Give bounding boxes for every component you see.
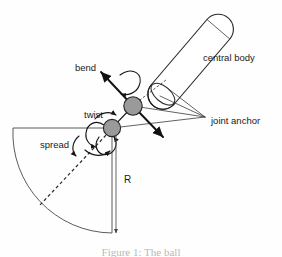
twist-rotation-arrow-icon [96,137,116,155]
label-radius: R [124,174,131,185]
label-spread: spread [40,139,69,150]
joint-degrees-of-freedom-diagram: central body joint anchor bend twist spr… [0,0,282,257]
spread-rotation-arrow-icon [73,136,79,156]
twist-rotation-arrow-secondary-icon [86,122,104,147]
label-twist: twist [84,109,103,120]
label-joint-anchor: joint anchor [210,115,260,126]
twist-joint-node[interactable] [103,119,120,136]
figure-container: central body joint anchor bend twist spr… [0,0,282,257]
label-bend: bend [75,62,96,73]
label-central-body: central body [203,52,255,63]
figure-caption: Figure 1: The ball [102,246,181,257]
bend-joint-node[interactable] [124,97,142,115]
bend-rotation-arrow-icon [120,71,140,94]
